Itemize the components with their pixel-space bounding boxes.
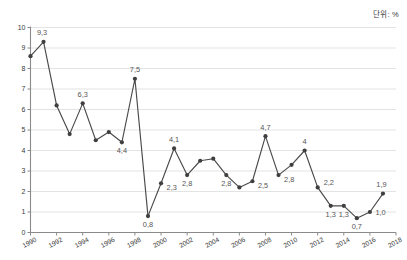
svg-text:1: 1: [22, 208, 26, 215]
svg-text:2018: 2018: [387, 236, 404, 249]
svg-text:2: 2: [22, 188, 26, 195]
svg-text:0,8: 0,8: [143, 220, 153, 229]
svg-text:0,7: 0,7: [352, 222, 362, 231]
svg-text:1990: 1990: [21, 236, 38, 249]
svg-text:9,3: 9,3: [37, 28, 47, 37]
svg-text:2,8: 2,8: [284, 175, 294, 184]
svg-text:6,3: 6,3: [78, 90, 88, 99]
svg-text:2008: 2008: [256, 236, 273, 249]
svg-text:4,7: 4,7: [260, 123, 270, 132]
svg-text:2,8: 2,8: [182, 179, 192, 188]
svg-text:2002: 2002: [178, 236, 195, 249]
chart-plot-area: 012345678910 199019921994199619982000200…: [0, 0, 407, 260]
svg-text:8: 8: [22, 65, 26, 72]
svg-text:2010: 2010: [282, 236, 299, 249]
gridlines-group: [31, 28, 397, 213]
svg-text:4: 4: [22, 147, 26, 154]
svg-text:4,4: 4,4: [117, 146, 127, 155]
y-tick-labels-group: 012345678910: [18, 24, 26, 236]
svg-text:3: 3: [22, 167, 26, 174]
svg-text:0: 0: [22, 229, 26, 236]
svg-text:1,3: 1,3: [326, 210, 336, 219]
svg-text:2016: 2016: [361, 236, 378, 249]
svg-text:2006: 2006: [230, 236, 247, 249]
svg-text:2,8: 2,8: [221, 179, 231, 188]
svg-text:5: 5: [22, 126, 26, 133]
svg-text:4,1: 4,1: [169, 135, 179, 144]
svg-text:1996: 1996: [100, 236, 117, 249]
svg-text:1,0: 1,0: [375, 208, 385, 217]
svg-text:10: 10: [18, 24, 26, 31]
svg-text:2012: 2012: [308, 236, 325, 249]
svg-text:9: 9: [22, 44, 26, 51]
svg-text:1994: 1994: [73, 236, 90, 249]
svg-text:7,5: 7,5: [130, 65, 140, 74]
svg-text:2,3: 2,3: [167, 183, 177, 192]
svg-text:1992: 1992: [47, 236, 64, 249]
svg-text:2000: 2000: [152, 236, 169, 249]
axes-group: [28, 27, 397, 236]
svg-text:2,2: 2,2: [324, 178, 334, 187]
x-tick-labels-group: 1990199219941996199820002002200420062008…: [21, 236, 403, 249]
svg-text:2,5: 2,5: [258, 181, 268, 190]
svg-text:6: 6: [22, 106, 26, 113]
svg-text:2004: 2004: [204, 236, 221, 249]
line-chart: 단위: % 012345678910 199019921994199619982…: [0, 0, 407, 260]
svg-text:4: 4: [303, 137, 307, 146]
svg-text:7: 7: [22, 85, 26, 92]
svg-text:1998: 1998: [126, 236, 143, 249]
svg-text:1,9: 1,9: [376, 180, 386, 189]
svg-text:2014: 2014: [334, 236, 351, 249]
svg-text:1,3: 1,3: [339, 210, 349, 219]
